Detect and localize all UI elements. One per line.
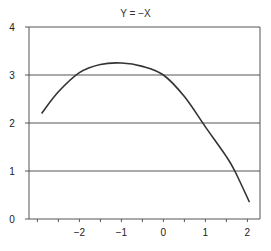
- gridlines: [25, 27, 260, 219]
- svg-text:2: 2: [9, 118, 15, 129]
- svg-text:0: 0: [161, 227, 167, 238]
- tick-labels: 01234−2−1012: [9, 22, 250, 238]
- svg-text:3: 3: [9, 70, 15, 81]
- svg-text:2: 2: [245, 227, 251, 238]
- svg-text:4: 4: [9, 22, 15, 33]
- svg-text:−1: −1: [116, 227, 128, 238]
- svg-text:1: 1: [203, 227, 209, 238]
- svg-text:−2: −2: [74, 227, 86, 238]
- data-line: [42, 63, 250, 202]
- line-chart: 01234−2−1012: [0, 0, 271, 251]
- svg-text:1: 1: [9, 166, 15, 177]
- axes: [29, 27, 260, 222]
- svg-text:0: 0: [9, 214, 15, 225]
